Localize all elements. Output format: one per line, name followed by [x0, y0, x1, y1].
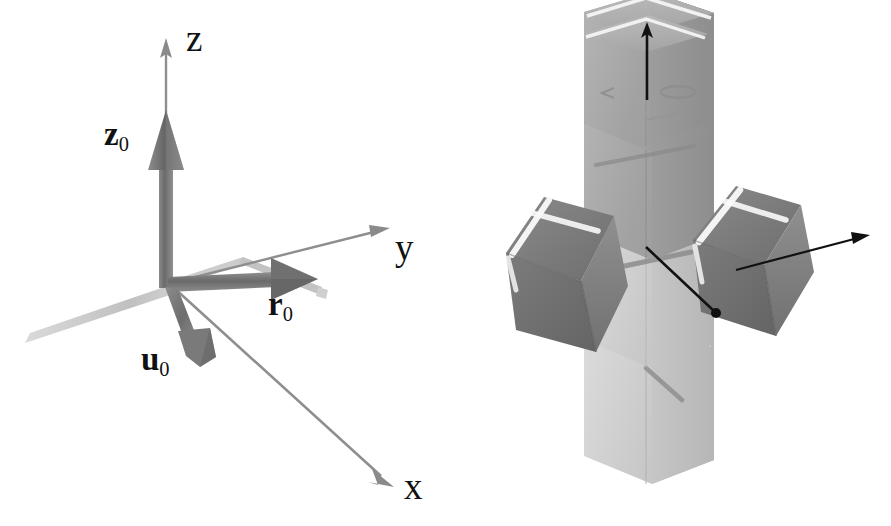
vector-label-r0-left: r0 [268, 288, 293, 321]
world-frame-axes-svg [0, 0, 446, 526]
axis-label-y: y [395, 229, 414, 266]
rotating-block-column-svg [446, 0, 891, 526]
ground-ribbon-left [25, 284, 176, 343]
figure-root: z z0 y r0 u0 x [0, 0, 891, 526]
vector-u0 [165, 287, 216, 367]
axis-label-z: z [186, 20, 202, 57]
axis-label-x: x [404, 468, 423, 505]
world-frame-axes-panel: z z0 y r0 u0 x [0, 0, 446, 526]
rotating-block-column-panel: z0 r0 u0 [446, 0, 891, 526]
vector-label-u0-left: u0 [141, 343, 170, 376]
vector-z0 [148, 110, 184, 288]
vector-label-z0-left: z0 [104, 118, 129, 151]
